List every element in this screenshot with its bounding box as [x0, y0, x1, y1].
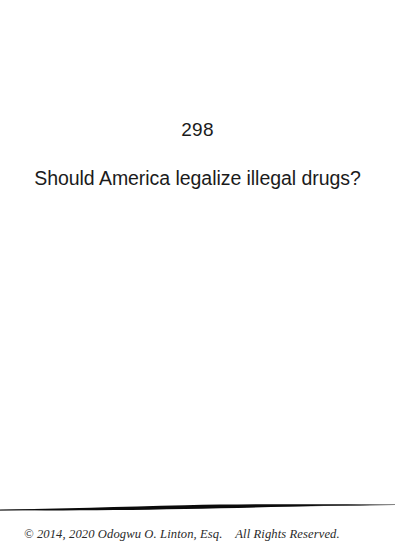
copyright-footer: © 2014, 2020 Odogwu O. Linton, Esq. All … — [24, 527, 374, 541]
scanned-page: 298 Should America legalize illegal drug… — [0, 0, 395, 545]
question-text: Should America legalize illegal drugs? — [10, 166, 385, 190]
blank-body-area — [0, 200, 395, 495]
page-number: 298 — [0, 120, 395, 139]
tapered-rule-icon — [0, 498, 395, 516]
divider-rule — [0, 498, 395, 516]
